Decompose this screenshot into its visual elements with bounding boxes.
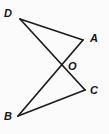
vertex-label-c: C (90, 85, 98, 96)
vertex-label-o: O (68, 61, 77, 72)
geometry-figure: D A O C B (0, 0, 109, 134)
vertex-label-d: D (4, 8, 12, 19)
vertex-label-b: B (4, 111, 12, 122)
vertex-label-a: A (90, 33, 98, 44)
figure-canvas (0, 0, 109, 134)
